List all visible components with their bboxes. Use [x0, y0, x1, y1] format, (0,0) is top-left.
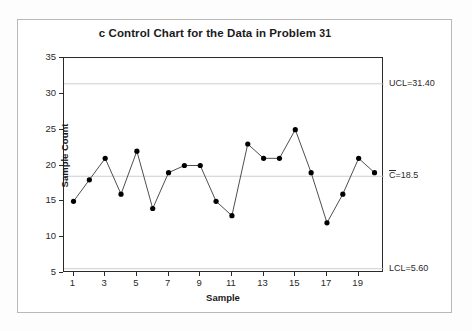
center-line-value: =18.5: [396, 170, 419, 180]
data-point-marker: [293, 127, 298, 132]
x-tick-label: 13: [253, 278, 273, 288]
data-point-marker: [356, 156, 361, 161]
x-tick-mark: [263, 272, 264, 276]
control-limit-lines: [64, 84, 384, 269]
data-point-marker: [277, 156, 282, 161]
x-tick-label: 15: [284, 278, 304, 288]
x-tick-mark: [73, 272, 74, 276]
data-point-marker: [198, 163, 203, 168]
y-tick-label: 15: [34, 195, 56, 205]
x-tick-label: 19: [348, 278, 368, 288]
center-line-annotation: C=18.5: [389, 170, 418, 180]
data-point-marker: [182, 163, 187, 168]
data-point-marker: [340, 192, 345, 197]
data-point-marker: [261, 156, 266, 161]
x-tick-mark: [231, 272, 232, 276]
plot-area: Sample Count: [63, 57, 383, 272]
x-tick-label: 7: [158, 278, 178, 288]
x-tick-label: 11: [221, 278, 241, 288]
x-tick-label: 3: [94, 278, 114, 288]
lcl-annotation: LCL=5.60: [389, 263, 428, 273]
x-tick-mark: [104, 272, 105, 276]
data-point-marker: [87, 177, 92, 182]
x-tick-mark: [168, 272, 169, 276]
chart-title-number: 31: [319, 27, 331, 39]
y-tick-label: 35: [34, 52, 56, 62]
y-tick-mark: [59, 129, 63, 130]
x-tick-mark: [326, 272, 327, 276]
y-tick-mark: [59, 236, 63, 237]
data-point-marker: [71, 199, 76, 204]
x-tick-label: 5: [126, 278, 146, 288]
y-tick-mark: [59, 165, 63, 166]
chart-page: c Control Chart for the Data in Problem …: [0, 0, 472, 331]
data-point-marker: [118, 192, 123, 197]
x-tick-label: 17: [316, 278, 336, 288]
data-point-marker: [134, 149, 139, 154]
ucl-annotation: UCL=31.40: [389, 78, 435, 88]
y-tick-mark: [59, 200, 63, 201]
control-chart-plot: [64, 58, 384, 273]
y-tick-mark: [59, 93, 63, 94]
y-tick-mark: [59, 57, 63, 58]
x-tick-label: 9: [189, 278, 209, 288]
data-point-marker: [213, 199, 218, 204]
x-axis-title: Sample: [63, 292, 383, 303]
y-tick-mark: [59, 272, 63, 273]
data-point-marker: [324, 220, 329, 225]
x-tick-mark: [358, 272, 359, 276]
data-point-marker: [245, 141, 250, 146]
y-tick-label: 25: [34, 124, 56, 134]
x-tick-mark: [199, 272, 200, 276]
data-point-marker: [372, 170, 377, 175]
x-tick-mark: [136, 272, 137, 276]
y-tick-label: 5: [34, 267, 56, 277]
chart-title-prefix: c Control Chart for the Data in Problem: [99, 27, 320, 39]
data-point-marker: [103, 156, 108, 161]
chart-title: c Control Chart for the Data in Problem …: [40, 27, 390, 39]
data-point-marker: [229, 213, 234, 218]
x-tick-label: 1: [63, 278, 83, 288]
x-tick-mark: [294, 272, 295, 276]
y-tick-label: 10: [34, 231, 56, 241]
y-tick-label: 20: [34, 160, 56, 170]
data-point-marker: [309, 170, 314, 175]
data-point-marker: [150, 206, 155, 211]
y-tick-label: 30: [34, 88, 56, 98]
y-axis-title: Sample Count: [59, 96, 70, 216]
data-point-marker: [166, 170, 171, 175]
